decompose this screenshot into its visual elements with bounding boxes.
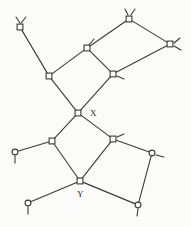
node-right-terminal [149, 150, 155, 156]
stub-n1-a [16, 17, 20, 23]
edge-n9-n12 [116, 140, 148, 152]
stub-n6-a [174, 38, 180, 43]
edge-n4-n7 [80, 77, 110, 111]
edge-n3-n5 [90, 21, 126, 46]
node-bottom-right-terminal [135, 202, 141, 208]
node-lower-left-ring [49, 138, 55, 144]
node-top-right [167, 41, 173, 47]
stub-n14-a [137, 209, 138, 216]
edge-n10-n14 [83, 182, 134, 203]
node-upper-left-ring [46, 73, 52, 79]
edge-n3-n4 [90, 51, 111, 72]
edge-n5-n6 [132, 21, 167, 42]
stub-n4-a [117, 76, 124, 79]
edge-n6-n4 [116, 46, 167, 73]
edge-n10-n13 [31, 182, 76, 201]
node-lower-right-ring [110, 136, 116, 142]
node-bottom-left-terminal [25, 200, 31, 206]
stub-n12-a [156, 155, 164, 157]
stub-n1-b [21, 17, 26, 23]
edge-n2-n7 [51, 79, 76, 110]
edge-n9-n10 [82, 142, 111, 178]
edge-n1-n2 [22, 30, 47, 73]
edge-n7-n9 [81, 115, 110, 137]
label-y: Y [77, 190, 84, 199]
node-y-center [77, 178, 83, 184]
node-top-center [126, 16, 132, 22]
node-left-terminal [12, 149, 18, 155]
stub-n5-b [131, 9, 135, 15]
figure-canvas: XY [0, 0, 191, 227]
label-x: X [90, 109, 97, 118]
edge-n8-n10 [54, 144, 78, 178]
node-upper-ring-top [84, 45, 90, 51]
node-top-left [17, 24, 23, 30]
stub-n5-a [125, 9, 128, 15]
node-upper-ring-right [110, 71, 116, 77]
stub-n6-b [174, 46, 181, 50]
edge-n2-n3 [52, 50, 84, 74]
edge-n8-n11 [18, 142, 48, 151]
edge-n7-n8 [54, 116, 75, 139]
stub-n9-a [117, 134, 124, 137]
edge-n12-n14 [139, 156, 151, 201]
node-x-center [75, 110, 81, 116]
